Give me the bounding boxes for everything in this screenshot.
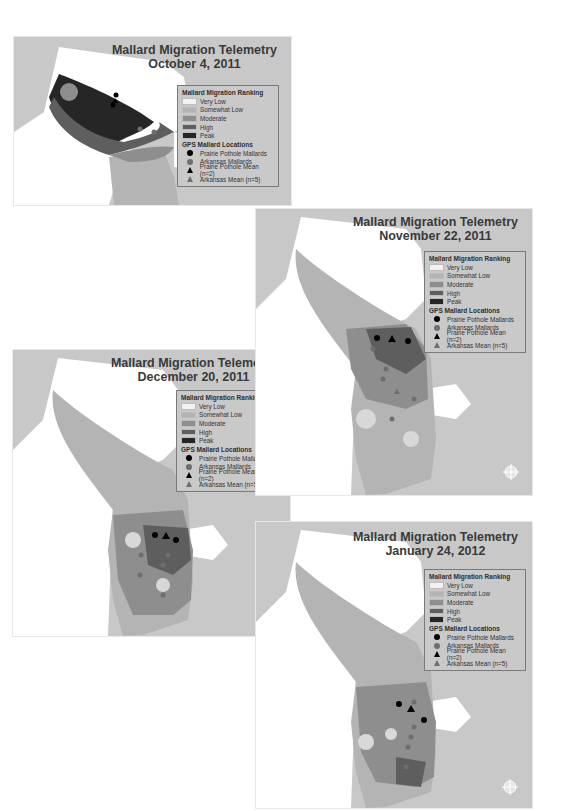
- swatch-high: [181, 429, 196, 436]
- black-circle-icon: [434, 634, 440, 640]
- legend-item-somewhat-low: Somewhat Low: [429, 272, 521, 281]
- gray-triangle-icon: [187, 176, 193, 182]
- swatch-somewhat-low: [429, 273, 444, 280]
- swatch-moderate: [181, 420, 196, 427]
- prairie-pothole-mallard: [396, 701, 402, 707]
- prairie-pothole-mallard: [152, 532, 158, 538]
- arkansas-mallard: [152, 130, 157, 135]
- legend-ranking-header: Mallard Migration Ranking: [429, 255, 521, 262]
- legend-item-moderate: Moderate: [429, 280, 521, 289]
- map-title: Mallard Migration Telemetry December 20,…: [111, 356, 276, 384]
- prairie-pothole-mallard: [374, 335, 380, 341]
- legend-label: Moderate: [447, 599, 474, 606]
- black-circle-icon: [434, 316, 440, 322]
- legend-label: Moderate: [200, 115, 227, 122]
- arkansas-mallard: [404, 765, 409, 770]
- legend-item-peak: Peak: [429, 297, 521, 306]
- title-line1: Mallard Migration Telemetry: [111, 356, 276, 370]
- swatch-very-low: [182, 98, 197, 105]
- arkansas-mallard: [138, 127, 143, 132]
- arkansas-mallard: [412, 397, 417, 402]
- legend-item-somewhat-low: Somewhat Low: [429, 590, 521, 599]
- black-triangle-icon: [186, 472, 192, 478]
- black-circle-icon: [186, 455, 192, 461]
- prairie-pothole-mallard: [421, 717, 427, 723]
- legend-item-somewhat-low: Somewhat Low: [182, 106, 274, 115]
- legend-label: Prairie Pothole Mallards: [447, 316, 514, 323]
- legend-label: Prairie Pothole Mallards: [200, 150, 267, 157]
- title-line2: January 24, 2012: [353, 544, 518, 558]
- swatch-high: [429, 608, 444, 615]
- arkansas-mallard: [161, 593, 166, 598]
- arkansas-mallard: [139, 553, 144, 558]
- swatch-very-low: [429, 582, 444, 589]
- swatch-peak: [429, 298, 444, 305]
- legend-label: High: [199, 429, 212, 436]
- legend-item-peak: Peak: [182, 131, 274, 140]
- legend-item-high: High: [182, 123, 274, 132]
- legend-label: Very Low: [199, 403, 225, 410]
- legend-label: Prairie Pothole Mallards: [447, 634, 514, 641]
- zone-somewhat-low-spot: [60, 83, 78, 101]
- legend-label: Peak: [447, 616, 461, 623]
- map-title: Mallard Migration Telemetry November 22,…: [353, 215, 518, 243]
- legend-label: Arkansas Mean (n=5): [200, 176, 260, 183]
- arkansas-mallard: [371, 347, 376, 352]
- swatch-very-low: [429, 264, 444, 271]
- zone-very-low-spot: [385, 728, 397, 740]
- map-title: Mallard Migration Telemetry January 24, …: [353, 530, 518, 558]
- arkansas-mallard: [161, 563, 166, 568]
- zone-very-low-spot: [403, 431, 419, 447]
- arkansas-mallard: [138, 573, 143, 578]
- legend-item-peak: Peak: [429, 615, 521, 624]
- map-panel-december: Mallard Migration Telemetry December 20,…: [13, 350, 290, 636]
- title-line1: Mallard Migration Telemetry: [353, 530, 518, 544]
- map-panel-october: Mallard Migration Telemetry October 4, 2…: [14, 37, 291, 205]
- gray-circle-icon: [186, 464, 192, 470]
- legend-item-high: High: [429, 289, 521, 298]
- swatch-high: [429, 290, 444, 297]
- swatch-peak: [429, 616, 444, 623]
- prairie-pothole-mallard: [111, 103, 116, 108]
- legend-label: High: [447, 608, 460, 615]
- title-line1: Mallard Migration Telemetry: [353, 215, 518, 229]
- zone-very-low-spot: [358, 734, 374, 750]
- legend-label: Arkansas Mean (n=5): [447, 660, 507, 667]
- map-panel-november: Mallard Migration Telemetry November 22,…: [256, 209, 532, 495]
- gray-triangle-icon: [186, 481, 192, 487]
- gray-circle-icon: [434, 325, 440, 331]
- map-panel-january: Mallard Migration Telemetry January 24, …: [256, 522, 532, 808]
- black-circle-icon: [187, 150, 193, 156]
- legend-item-very-low: Very Low: [182, 97, 274, 106]
- swatch-moderate: [429, 281, 444, 288]
- legend-label: Very Low: [447, 582, 473, 589]
- legend-label: Arkansas Mean (n=5): [199, 481, 259, 488]
- legend-item-prairie-mean: Prairie Pothole Mean (n=2): [429, 650, 521, 659]
- legend-item-prairie-mean: Prairie Pothole Mean (n=2): [182, 166, 274, 175]
- legend-item-arkansas-mean: Arkansas Mean (n=5): [182, 175, 274, 184]
- legend-item-prairie-mallards: Prairie Pothole Mallards: [429, 315, 521, 324]
- gray-circle-icon: [434, 643, 440, 649]
- arkansas-mallard: [381, 377, 386, 382]
- legend-ranking-header: Mallard Migration Ranking: [182, 89, 274, 96]
- swatch-peak: [182, 132, 197, 139]
- arkansas-mallard: [412, 725, 417, 730]
- zone-very-low-spot: [156, 578, 170, 592]
- swatch-moderate: [429, 599, 444, 606]
- map-legend: Mallard Migration Ranking Very Low Somew…: [177, 85, 279, 187]
- legend-item-prairie-mallards: Prairie Pothole Mallards: [429, 633, 521, 642]
- swatch-somewhat-low: [181, 412, 196, 419]
- legend-label: Somewhat Low: [199, 411, 242, 418]
- legend-label: High: [447, 290, 460, 297]
- swatch-peak: [181, 437, 196, 444]
- legend-label: Somewhat Low: [200, 106, 243, 113]
- black-triangle-icon: [434, 651, 440, 657]
- legend-label: High: [200, 124, 213, 131]
- gray-triangle-icon: [434, 342, 440, 348]
- title-line2: December 20, 2011: [111, 370, 276, 384]
- legend-gps-header: GPS Mallard Locations: [429, 307, 521, 314]
- legend-item-very-low: Very Low: [429, 263, 521, 272]
- zone-very-low-spot: [125, 532, 141, 548]
- map-title: Mallard Migration Telemetry October 4, 2…: [112, 43, 277, 71]
- legend-item-moderate: Moderate: [429, 598, 521, 607]
